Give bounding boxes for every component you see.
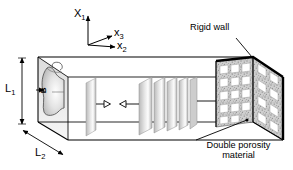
annotation-double-porosity: Double porosity material [186, 141, 291, 161]
leader-rigid-wall [236, 38, 252, 57]
wavefront-plane-left [86, 78, 96, 136]
annotation-rigid-wall: Rigid wall [190, 23, 229, 33]
coordinate-axes [88, 16, 115, 47]
dimension-l1-line [18, 58, 26, 124]
dimension-label-l1: L1 [5, 83, 15, 97]
dimension-label-b: B [40, 87, 49, 93]
axis-label-x1: X1 [74, 8, 86, 22]
dimension-label-l2: L2 [35, 147, 45, 161]
figure-root: X1 x3 x2 L1 L2 B Rigid wall Double poros… [0, 0, 293, 170]
axis-label-x2: x2 [117, 40, 127, 54]
annotation-double-porosity-line2: material [186, 151, 291, 161]
